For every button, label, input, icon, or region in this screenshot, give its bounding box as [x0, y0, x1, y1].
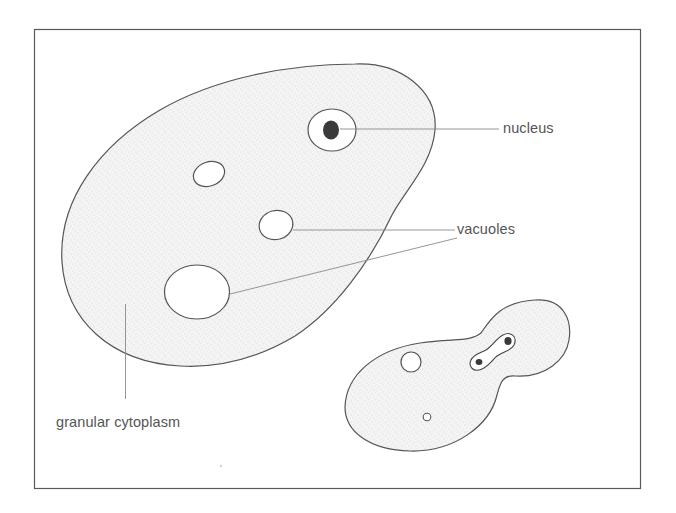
nucleolus [323, 121, 339, 140]
large-cell-membrane [62, 64, 435, 366]
label-nucleus: nucleus [503, 121, 554, 136]
daughter-nucleus-upper [504, 337, 511, 345]
cell-diagram [0, 0, 676, 513]
vacuole-large [165, 265, 230, 319]
budding-cell-vacuole [401, 352, 421, 372]
label-vacuoles: vacuoles [457, 222, 515, 237]
daughter-nucleus-lower [476, 359, 483, 365]
budding-cell-membrane [345, 300, 570, 451]
budding-cell-vacuole-tiny [423, 413, 431, 421]
print-speck [220, 465, 222, 467]
label-granular-cytoplasm: granular cytoplasm [56, 415, 180, 430]
